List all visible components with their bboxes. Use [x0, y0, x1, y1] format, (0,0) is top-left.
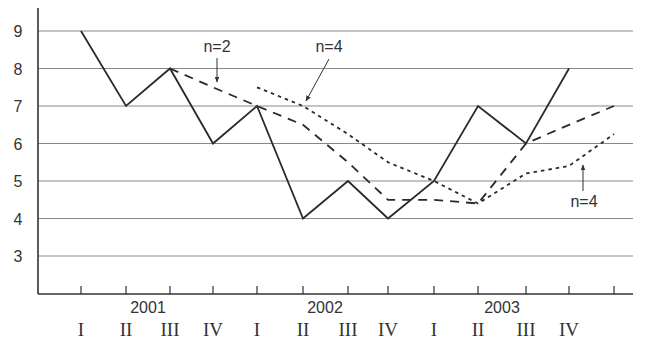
- series-line-n2: [170, 69, 614, 204]
- quarter-label: III: [339, 319, 358, 340]
- data-series: [81, 31, 614, 219]
- year-label: 2002: [307, 299, 343, 316]
- y-tick-label: 9: [14, 23, 23, 40]
- quarter-label: II: [297, 319, 310, 340]
- quarter-label: II: [472, 319, 485, 340]
- moving-average-chart: 3456789 IIIIIIIVIIIIIIIVIIIIIIIV20012002…: [0, 0, 649, 358]
- y-tick-label: 3: [14, 248, 23, 265]
- quarter-label: III: [517, 319, 536, 340]
- annotations: n=2 n=4 n=4: [203, 38, 597, 210]
- quarter-label: IV: [378, 319, 398, 340]
- quarter-label: I: [254, 319, 260, 340]
- gridlines: [38, 31, 633, 256]
- annotation-n2-label: n=2: [203, 38, 230, 55]
- y-tick-label: 6: [14, 136, 23, 153]
- annotation-n4-lower-label: n=4: [570, 193, 597, 210]
- y-tick-label: 7: [14, 98, 23, 115]
- quarter-label: IV: [203, 319, 223, 340]
- series-line-actual: [81, 31, 569, 219]
- year-label: 2001: [130, 299, 166, 316]
- annotation-n4-arrow: [306, 59, 329, 101]
- y-tick-label: 8: [14, 61, 23, 78]
- series-line-n4: [257, 87, 614, 203]
- quarter-label: III: [161, 319, 180, 340]
- quarter-label: IV: [559, 319, 579, 340]
- annotation-n4-label: n=4: [315, 38, 342, 55]
- y-axis-tick-labels: 3456789: [14, 23, 23, 265]
- quarter-label: I: [431, 319, 437, 340]
- quarter-label: II: [120, 319, 133, 340]
- year-label: 2003: [484, 299, 520, 316]
- quarter-label: I: [78, 319, 84, 340]
- y-tick-label: 5: [14, 173, 23, 190]
- y-tick-label: 4: [14, 211, 23, 228]
